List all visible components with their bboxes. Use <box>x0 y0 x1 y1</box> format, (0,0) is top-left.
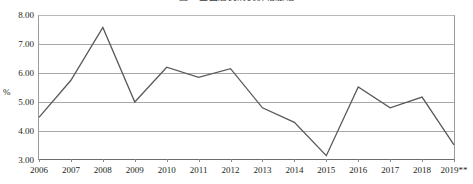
x-tick-label: 2013 <box>253 165 271 175</box>
x-tickmark <box>167 159 168 162</box>
x-tick-label: 2009 <box>126 165 144 175</box>
x-tick-label: 2010 <box>158 165 176 175</box>
series-line-layer <box>0 0 473 184</box>
x-tickmark <box>199 159 200 162</box>
x-tickmark <box>71 159 72 162</box>
x-tick-label: 2007 <box>62 165 80 175</box>
x-tickmark <box>103 159 104 162</box>
x-tickmark <box>358 159 359 162</box>
x-tick-label: 2016 <box>349 165 367 175</box>
x-tickmark <box>294 159 295 162</box>
x-tickmark <box>454 159 455 162</box>
x-tick-label: 2012 <box>222 165 240 175</box>
x-tick-label: 2006 <box>30 165 48 175</box>
x-tickmark <box>390 159 391 162</box>
x-tickmark <box>135 159 136 162</box>
x-tick-label: 2008 <box>94 165 112 175</box>
x-tickmark <box>39 159 40 162</box>
x-tickmark <box>231 159 232 162</box>
x-tickmark <box>422 159 423 162</box>
x-tick-label: 2019** <box>441 165 468 175</box>
x-tick-label: 2015 <box>317 165 335 175</box>
line-chart-figure: 图 2 全国居民消费价格涨幅 % 8.00 7.00 6.00 5.00 4.0… <box>0 0 473 184</box>
x-tickmark <box>326 159 327 162</box>
x-tick-label: 2017 <box>381 165 399 175</box>
x-tick-label: 2011 <box>190 165 208 175</box>
data-series-line <box>39 27 454 155</box>
x-tick-label: 2014 <box>285 165 303 175</box>
x-axis-labels: 2006200720082009201020112012201320142015… <box>0 163 473 183</box>
x-tickmark <box>262 159 263 162</box>
x-tick-label: 2018 <box>413 165 431 175</box>
